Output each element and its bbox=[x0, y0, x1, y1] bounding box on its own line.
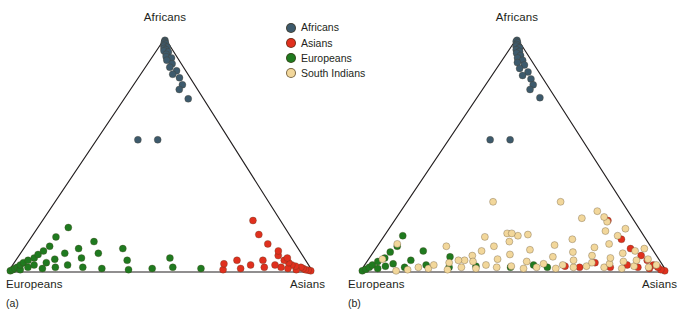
data-point[interactable] bbox=[415, 264, 422, 271]
data-point[interactable] bbox=[275, 247, 282, 254]
data-point[interactable] bbox=[75, 245, 82, 252]
data-point[interactable] bbox=[533, 264, 540, 271]
legend-item-europeans[interactable]: Europeans bbox=[286, 50, 396, 65]
data-point[interactable] bbox=[469, 258, 476, 265]
data-point[interactable] bbox=[487, 136, 494, 143]
data-point[interactable] bbox=[169, 264, 176, 271]
data-point[interactable] bbox=[255, 231, 262, 238]
data-point[interactable] bbox=[569, 249, 576, 256]
data-point[interactable] bbox=[430, 261, 437, 268]
data-point[interactable] bbox=[185, 95, 192, 102]
data-point[interactable] bbox=[233, 257, 240, 264]
data-point[interactable] bbox=[540, 260, 547, 267]
data-point[interactable] bbox=[508, 230, 515, 237]
data-point[interactable] bbox=[607, 254, 614, 261]
data-point[interactable] bbox=[519, 72, 526, 79]
data-point[interactable] bbox=[264, 240, 271, 247]
data-point[interactable] bbox=[602, 228, 609, 235]
data-point[interactable] bbox=[653, 261, 660, 268]
legend-item-south-indians[interactable]: South Indians bbox=[286, 66, 396, 81]
data-point[interactable] bbox=[645, 256, 652, 263]
data-point[interactable] bbox=[446, 259, 453, 266]
data-point[interactable] bbox=[570, 257, 577, 264]
data-point[interactable] bbox=[149, 265, 156, 272]
data-point[interactable] bbox=[407, 257, 414, 264]
data-point[interactable] bbox=[51, 256, 58, 263]
data-point[interactable] bbox=[594, 208, 601, 215]
data-point[interactable] bbox=[124, 257, 131, 264]
data-point[interactable] bbox=[614, 232, 621, 239]
data-point[interactable] bbox=[443, 243, 450, 250]
data-point[interactable] bbox=[455, 257, 462, 264]
data-point[interactable] bbox=[588, 259, 595, 266]
data-point[interactable] bbox=[490, 198, 497, 205]
data-point[interactable] bbox=[552, 265, 559, 272]
data-point[interactable] bbox=[237, 265, 244, 272]
data-point[interactable] bbox=[458, 264, 465, 271]
data-point[interactable] bbox=[536, 94, 543, 101]
data-point[interactable] bbox=[284, 254, 291, 261]
legend-item-asians[interactable]: Asians bbox=[286, 35, 396, 50]
data-point[interactable] bbox=[382, 263, 389, 270]
data-point[interactable] bbox=[220, 260, 227, 267]
data-point[interactable] bbox=[618, 265, 625, 272]
data-point[interactable] bbox=[508, 263, 515, 270]
data-point[interactable] bbox=[606, 240, 613, 247]
data-point[interactable] bbox=[507, 136, 514, 143]
data-point[interactable] bbox=[169, 71, 176, 78]
data-point[interactable] bbox=[79, 264, 86, 271]
data-point[interactable] bbox=[46, 243, 53, 250]
data-point[interactable] bbox=[40, 247, 47, 254]
data-point[interactable] bbox=[494, 256, 501, 263]
data-point[interactable] bbox=[247, 261, 254, 268]
data-point[interactable] bbox=[393, 267, 400, 274]
data-point[interactable] bbox=[641, 245, 648, 252]
data-point[interactable] bbox=[387, 249, 394, 256]
data-point[interactable] bbox=[154, 136, 161, 143]
data-point[interactable] bbox=[176, 86, 183, 93]
data-point[interactable] bbox=[524, 231, 531, 238]
data-point[interactable] bbox=[620, 258, 627, 265]
legend-item-africans[interactable]: Africans bbox=[286, 20, 396, 35]
data-point[interactable] bbox=[390, 260, 397, 267]
data-point[interactable] bbox=[633, 257, 640, 264]
data-point[interactable] bbox=[559, 261, 566, 268]
data-point[interactable] bbox=[444, 266, 451, 273]
data-point[interactable] bbox=[166, 64, 173, 71]
data-point[interactable] bbox=[52, 233, 59, 240]
data-point[interactable] bbox=[591, 244, 598, 251]
data-point[interactable] bbox=[490, 243, 497, 250]
data-point[interactable] bbox=[404, 266, 411, 273]
data-point[interactable] bbox=[523, 258, 530, 265]
data-point[interactable] bbox=[601, 214, 608, 221]
data-point[interactable] bbox=[481, 233, 488, 240]
data-point[interactable] bbox=[569, 236, 576, 243]
data-point[interactable] bbox=[259, 257, 266, 264]
data-point[interactable] bbox=[379, 256, 386, 263]
data-point[interactable] bbox=[516, 65, 523, 72]
data-point[interactable] bbox=[119, 245, 126, 252]
data-point[interactable] bbox=[526, 246, 533, 253]
data-point[interactable] bbox=[632, 247, 639, 254]
data-point[interactable] bbox=[78, 254, 85, 261]
data-point[interactable] bbox=[420, 247, 427, 254]
data-point[interactable] bbox=[90, 238, 97, 245]
data-point[interactable] bbox=[261, 264, 268, 271]
data-point[interactable] bbox=[570, 264, 577, 271]
data-point[interactable] bbox=[482, 261, 489, 268]
data-point[interactable] bbox=[578, 215, 585, 222]
data-point[interactable] bbox=[619, 250, 626, 257]
data-point[interactable] bbox=[557, 198, 564, 205]
data-point[interactable] bbox=[506, 238, 513, 245]
data-point[interactable] bbox=[374, 265, 381, 272]
data-point[interactable] bbox=[65, 224, 72, 231]
data-point[interactable] bbox=[43, 259, 50, 266]
data-point[interactable] bbox=[622, 225, 629, 232]
data-point[interactable] bbox=[520, 265, 527, 272]
data-point[interactable] bbox=[52, 264, 59, 271]
data-point[interactable] bbox=[95, 250, 102, 257]
data-point[interactable] bbox=[166, 254, 173, 261]
data-point[interactable] bbox=[64, 261, 71, 268]
data-point[interactable] bbox=[176, 74, 183, 81]
data-point[interactable] bbox=[493, 264, 500, 271]
